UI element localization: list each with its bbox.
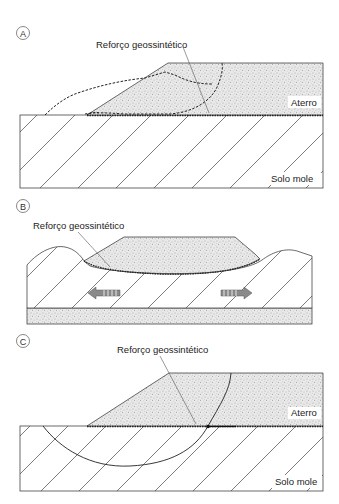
- panel-a-letter: A: [20, 29, 26, 39]
- embankment-fill: [84, 237, 260, 274]
- panel-a: A Reforço geossintético Aterro Solo mole: [0, 27, 339, 201]
- geosynthetic-reinforcement-diagram: A Reforço geossintético Aterro Solo mole…: [0, 0, 339, 504]
- fill-label: Aterro: [291, 407, 317, 418]
- intersection-point: [206, 425, 210, 429]
- soil-label: Solo mole: [275, 476, 317, 487]
- embankment-fill: [87, 373, 323, 426]
- panel-c: C Reforço geossintético Aterro Solo mole: [0, 335, 339, 501]
- panel-b: B Reforço geossintético: [0, 200, 339, 325]
- soil-label: Solo mole: [271, 173, 313, 184]
- reinforcement-label: Reforço geossintético: [117, 344, 208, 355]
- panel-b-letter: B: [20, 202, 26, 212]
- reinforcement-label: Reforço geossintético: [33, 220, 124, 231]
- firm-sand-layer: [27, 308, 312, 324]
- reinforcement-label: Reforço geossintético: [96, 39, 187, 50]
- embankment-fill: [87, 63, 323, 115]
- fill-label: Aterro: [291, 97, 317, 108]
- panel-c-letter: C: [20, 337, 27, 347]
